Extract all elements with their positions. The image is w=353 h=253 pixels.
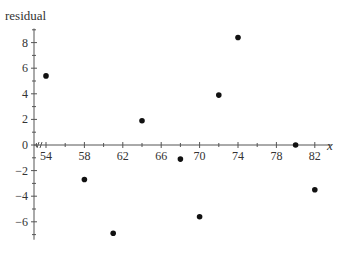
residual-scatter-plot: 5458626670747882−6−4−202468 residual x — [0, 0, 353, 253]
data-point — [82, 177, 88, 183]
x-tick-label: 58 — [78, 149, 90, 163]
data-point — [43, 73, 49, 79]
x-tick-label: 78 — [270, 149, 282, 163]
y-tick-label: 6 — [22, 61, 28, 75]
x-tick-label: 74 — [232, 149, 244, 163]
x-tick-label: 54 — [40, 149, 52, 163]
x-tick-label: 66 — [155, 149, 167, 163]
data-point — [178, 156, 184, 162]
ticks — [31, 30, 315, 235]
y-axis-title: residual — [5, 8, 47, 23]
x-axis-title: x — [326, 138, 333, 153]
y-tick-label: −6 — [15, 215, 28, 229]
data-point — [235, 35, 241, 41]
data-point — [312, 187, 318, 193]
data-point — [216, 92, 222, 98]
data-point — [197, 214, 203, 220]
data-point — [293, 142, 299, 148]
y-tick-label: 0 — [22, 138, 28, 152]
axes — [34, 29, 332, 240]
y-tick-label: 4 — [22, 87, 28, 101]
y-tick-label: 2 — [22, 112, 28, 126]
x-tick-label: 62 — [117, 149, 129, 163]
y-tick-label: −4 — [15, 189, 28, 203]
x-tick-label: 70 — [194, 149, 206, 163]
x-tick-label: 82 — [309, 149, 321, 163]
data-points — [43, 35, 317, 236]
y-tick-label: −2 — [15, 164, 28, 178]
tick-labels: 5458626670747882−6−4−202468 — [15, 36, 321, 229]
y-tick-label: 8 — [22, 36, 28, 50]
data-point — [110, 231, 116, 237]
data-point — [139, 118, 145, 124]
